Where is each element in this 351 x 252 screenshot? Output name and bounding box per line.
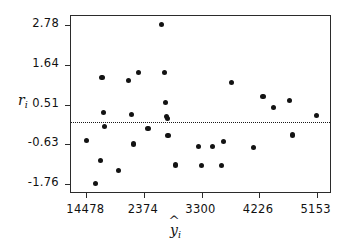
- data-point: [251, 145, 256, 150]
- x-axis-tick: [202, 192, 203, 198]
- y-axis-tick-label: 1.64: [0, 58, 59, 70]
- data-point: [314, 113, 319, 118]
- data-point: [229, 80, 234, 85]
- data-point: [98, 158, 103, 163]
- y-axis-tick: [65, 184, 71, 185]
- data-point: [162, 70, 167, 75]
- data-point: [102, 124, 107, 129]
- x-axis-tick-label: 5153: [281, 204, 351, 216]
- x-axis-title-hat-group: ^y: [170, 222, 178, 238]
- data-point: [136, 70, 141, 75]
- plot-area: [71, 16, 330, 192]
- plot-frame: [70, 15, 331, 193]
- data-point: [260, 94, 265, 99]
- y-axis-tick: [65, 105, 71, 106]
- data-point: [210, 144, 215, 149]
- data-point: [165, 133, 170, 138]
- data-point: [99, 75, 104, 80]
- x-axis-tick: [144, 192, 145, 198]
- y-axis-tick-label: 2.78: [0, 18, 59, 30]
- zero-reference-line: [71, 122, 330, 123]
- data-point: [219, 163, 224, 168]
- x-axis-tick: [86, 192, 87, 198]
- data-point: [159, 22, 164, 27]
- x-axis-title-subscript: i: [178, 229, 181, 240]
- x-axis-tick: [259, 192, 260, 198]
- data-point: [271, 105, 276, 110]
- data-point: [116, 168, 121, 173]
- data-point: [84, 138, 89, 143]
- y-axis-tick-label: -0.63: [0, 137, 59, 149]
- data-point: [163, 100, 168, 105]
- x-axis-tick: [317, 192, 318, 198]
- x-axis-title: ^yi: [0, 222, 351, 243]
- data-point: [165, 116, 170, 121]
- data-point: [101, 110, 106, 115]
- data-point: [287, 98, 292, 103]
- y-axis-tick: [65, 65, 71, 66]
- y-axis-tick: [65, 144, 71, 145]
- data-point: [221, 139, 226, 144]
- data-point: [129, 112, 134, 117]
- data-point: [145, 126, 150, 131]
- y-axis-tick-label: -1.76: [0, 177, 59, 189]
- data-point: [196, 144, 201, 149]
- y-axis-tick-label: 0.51: [0, 98, 59, 110]
- data-point: [126, 78, 131, 83]
- circumflex-icon: ^: [168, 214, 179, 227]
- data-point: [93, 181, 98, 186]
- data-point: [290, 132, 295, 137]
- data-point: [199, 163, 204, 168]
- data-point: [173, 162, 178, 167]
- data-point: [131, 141, 136, 146]
- residual-scatter-figure: ri 2.781.640.51-0.63-1.76 14478237433004…: [0, 0, 351, 252]
- y-axis-tick: [65, 25, 71, 26]
